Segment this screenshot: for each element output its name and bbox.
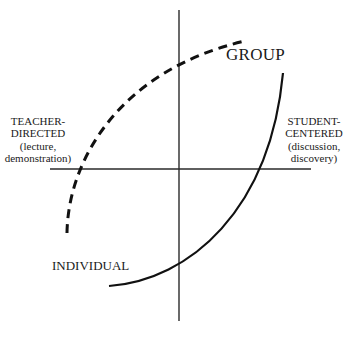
teacher-subtitle-line-2: demonstration) — [0, 152, 76, 164]
teacher-directed-label: TEACHER- DIRECTED (lecture, demonstratio… — [0, 115, 76, 164]
individual-label: INDIVIDUAL — [52, 259, 129, 274]
solid-curve — [109, 73, 283, 286]
dashed-curve — [67, 41, 245, 233]
teacher-title-line-2: DIRECTED — [0, 127, 76, 139]
teacher-subtitle-line-1: (lecture, — [0, 140, 76, 152]
diagram-canvas — [0, 0, 350, 341]
student-subtitle-line-1: (discussion, — [278, 140, 350, 152]
student-title-line-2: CENTERED — [278, 127, 350, 139]
teacher-title-line-1: TEACHER- — [0, 115, 76, 127]
student-subtitle-line-2: discovery) — [278, 152, 350, 164]
student-centered-label: STUDENT- CENTERED (discussion, discovery… — [278, 115, 350, 164]
student-title-line-1: STUDENT- — [278, 115, 350, 127]
group-label: GROUP — [226, 45, 285, 64]
